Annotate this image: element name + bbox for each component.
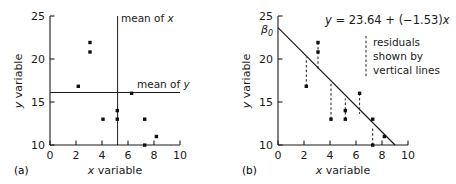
svg-text:shown by: shown by [373, 50, 423, 62]
panel-a-tag: (a) [14, 164, 29, 176]
svg-text:10: 10 [173, 149, 187, 162]
beta-zero-label: β0 [260, 23, 273, 38]
panel-a-y-axis-title: y variable [12, 54, 25, 110]
svg-text:6: 6 [353, 149, 360, 162]
svg-text:residuals: residuals [373, 36, 420, 48]
svg-text:10: 10 [259, 139, 273, 152]
svg-text:0: 0 [47, 149, 54, 162]
panel-b-x-axis-title: x variable [315, 164, 371, 177]
svg-text:25: 25 [31, 10, 45, 23]
mean-of-x-label: mean of x [121, 12, 175, 24]
svg-text:15: 15 [31, 96, 45, 109]
panel-a-x-axis-title: x variable [87, 164, 143, 177]
panel-a-plot: 10 15 20 25 0 2 4 6 8 10 x variable y va… [0, 0, 228, 184]
panel-a-x-tick-labels: 0 2 4 6 8 10 [47, 149, 188, 162]
regression-equation: y = 23.64 + (−1.53)x [324, 13, 450, 27]
svg-text:8: 8 [151, 149, 158, 162]
svg-text:20: 20 [31, 53, 45, 66]
svg-text:4: 4 [327, 149, 334, 162]
svg-text:25: 25 [259, 10, 273, 23]
panel-b-residual-lines [306, 43, 372, 146]
panel-a: 10 15 20 25 0 2 4 6 8 10 x variable y va… [0, 0, 228, 184]
svg-text:20: 20 [259, 53, 273, 66]
svg-text:4: 4 [99, 149, 106, 162]
svg-text:10: 10 [401, 149, 415, 162]
panel-b: 10 15 20 25 β0 0 2 4 6 8 10 x variable [228, 0, 456, 184]
svg-text:6: 6 [125, 149, 132, 162]
svg-text:8: 8 [379, 149, 386, 162]
two-panel-regression-figure: 10 15 20 25 0 2 4 6 8 10 x variable y va… [0, 0, 456, 184]
svg-text:vertical lines: vertical lines [373, 64, 440, 76]
panel-b-x-tick-labels: 0 2 4 6 8 10 [275, 149, 416, 162]
svg-text:2: 2 [301, 149, 308, 162]
residual-note: residuals shown by vertical lines [373, 36, 440, 76]
svg-text:15: 15 [259, 96, 273, 109]
panel-b-plot: 10 15 20 25 β0 0 2 4 6 8 10 x variable [228, 0, 456, 184]
mean-of-y-label: mean of y [137, 78, 191, 90]
panel-a-y-tick-labels: 10 15 20 25 [31, 10, 45, 152]
svg-text:0: 0 [275, 149, 282, 162]
svg-text:2: 2 [73, 149, 80, 162]
svg-text:10: 10 [31, 139, 45, 152]
panel-b-tag: (b) [242, 164, 257, 176]
panel-b-y-axis-title: y variable [240, 54, 253, 110]
